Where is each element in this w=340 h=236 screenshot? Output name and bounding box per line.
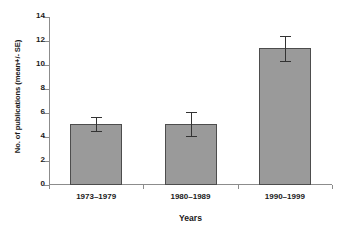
- y-tick-label: 2: [23, 155, 45, 164]
- y-tick-label: 12: [23, 35, 45, 44]
- x-tick-mark: [332, 185, 333, 189]
- x-tick-mark: [143, 185, 144, 189]
- error-bar-cap-upper: [280, 36, 291, 37]
- bar: [259, 48, 311, 185]
- bar-chart-figure: No. of publications (mean+/- SE) 0246810…: [0, 0, 340, 236]
- error-bar-line: [285, 36, 286, 61]
- y-tick-label: 10: [23, 59, 45, 68]
- error-bar-cap-lower: [186, 136, 197, 137]
- plot-area: 02468101214: [49, 17, 332, 185]
- error-bar-cap-upper: [91, 117, 102, 118]
- y-axis-line: [49, 17, 50, 185]
- x-tick-label: 1973–1979: [56, 192, 136, 201]
- y-tick-label: 6: [23, 107, 45, 116]
- y-tick-label: 0: [23, 179, 45, 188]
- y-tick-label: 4: [23, 131, 45, 140]
- x-tick-mark: [49, 185, 50, 189]
- error-bar-cap-lower: [91, 131, 102, 132]
- error-bar-line: [96, 117, 97, 131]
- x-tick-label: 1990–1999: [245, 192, 325, 201]
- x-axis-title: Years: [49, 213, 332, 223]
- y-tick-label: 14: [23, 11, 45, 20]
- error-bar-line: [191, 112, 192, 136]
- bar: [70, 124, 122, 185]
- x-tick-label: 1980–1989: [151, 192, 231, 201]
- x-tick-mark: [238, 185, 239, 189]
- error-bar-cap-upper: [186, 112, 197, 113]
- y-axis-title: No. of publications (mean+/- SE): [13, 12, 22, 182]
- y-tick-label: 8: [23, 83, 45, 92]
- error-bar-cap-lower: [280, 61, 291, 62]
